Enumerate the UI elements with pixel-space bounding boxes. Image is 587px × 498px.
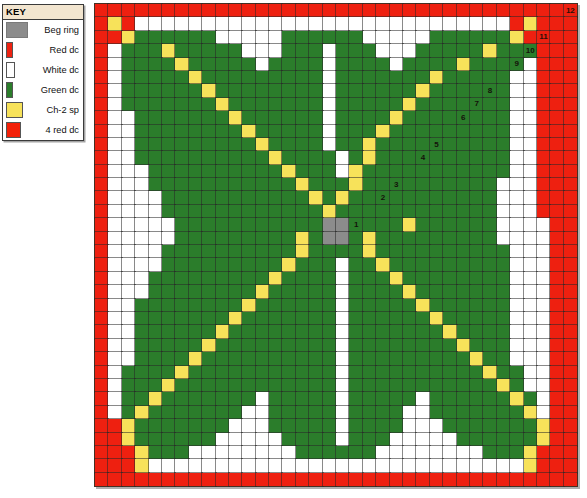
stitch-cell-white-dc [376, 446, 389, 459]
stitch-cell-red-dc [537, 44, 550, 57]
stitch-cell-white-dc [108, 299, 121, 312]
stitch-cell-green-dc [296, 111, 309, 124]
stitch-cell-green-dc [416, 285, 429, 298]
stitch-cell-green-dc [242, 312, 255, 325]
stitch-cell-green-dc [216, 352, 229, 365]
stitch-cell-green-dc [296, 84, 309, 97]
stitch-cell-green-dc [256, 151, 269, 164]
stitch-cell-green-dc [242, 58, 255, 71]
stitch-cell-green-dc [376, 379, 389, 392]
stitch-cell-green-dc [403, 178, 416, 191]
stitch-cell-green-dc [135, 366, 148, 379]
stitch-cell-green-dc [309, 31, 322, 44]
stitch-cell-white-dc [524, 151, 537, 164]
stitch-cell-white-dc [135, 258, 148, 271]
stitch-cell-red-dc [242, 473, 255, 486]
stitch-cell-green-dc [122, 71, 135, 84]
stitch-cell-red-dc [376, 4, 389, 17]
stitch-cell-green-dc [189, 178, 202, 191]
stitch-cell-red-dc [95, 379, 108, 392]
stitch-cell-white-dc [108, 165, 121, 178]
stitch-cell-green-dc [296, 379, 309, 392]
stitch-cell-white-dc [537, 352, 550, 365]
stitch-cell-white-dc [108, 339, 121, 352]
stitch-cell-ch-2-sp [390, 272, 403, 285]
stitch-cell-green-dc [376, 272, 389, 285]
stitch-cell-green-dc [470, 44, 483, 57]
stitch-cell-green-dc [457, 285, 470, 298]
stitch-cell-green-dc [457, 245, 470, 258]
round-number-cell: 7 [470, 98, 483, 111]
stitch-cell-green-dc [430, 339, 443, 352]
stitch-cell-white-dc [430, 446, 443, 459]
stitch-cell-green-dc [510, 379, 523, 392]
round-number-cell: 12 [564, 4, 577, 17]
stitch-cell-green-dc [497, 165, 510, 178]
stitch-cell-ch-2-sp [457, 339, 470, 352]
stitch-cell-white-dc [229, 446, 242, 459]
stitch-cell-green-dc [149, 433, 162, 446]
stitch-cell-white-dc [376, 17, 389, 30]
stitch-cell-ch-2-sp [403, 218, 416, 231]
stitch-cell-green-dc [269, 191, 282, 204]
stitch-cell-red-dc [550, 218, 563, 231]
stitch-cell-green-dc [189, 433, 202, 446]
stitch-cell-green-dc [309, 245, 322, 258]
stitch-cell-green-dc [470, 71, 483, 84]
stitch-cell-red-dc [550, 446, 563, 459]
stitch-cell-green-dc [390, 125, 403, 138]
stitch-cell-red-dc [550, 31, 563, 44]
stitch-cell-green-dc [323, 366, 336, 379]
stitch-cell-green-dc [416, 312, 429, 325]
stitch-cell-green-dc [256, 312, 269, 325]
round-number-label: 8 [483, 84, 496, 97]
stitch-cell-ch-2-sp [256, 285, 269, 298]
stitch-cell-green-dc [416, 44, 429, 57]
stitch-cell-green-dc [175, 419, 188, 432]
stitch-cell-green-dc [309, 98, 322, 111]
stitch-cell-green-dc [497, 84, 510, 97]
stitch-cell-green-dc [497, 272, 510, 285]
stitch-cell-green-dc [376, 433, 389, 446]
stitch-cell-green-dc [470, 165, 483, 178]
stitch-cell-red-dc [108, 433, 121, 446]
stitch-cell-green-dc [216, 339, 229, 352]
stitch-cell-red-dc [269, 4, 282, 17]
stitch-cell-green-dc [149, 366, 162, 379]
stitch-cell-white-dc [524, 58, 537, 71]
stitch-cell-white-dc [510, 285, 523, 298]
round-number-label: 4 [416, 151, 429, 164]
stitch-cell-red-dc [564, 125, 577, 138]
stitch-cell-green-dc [443, 232, 456, 245]
stitch-cell-green-dc [524, 419, 537, 432]
stitch-cell-red-dc [229, 4, 242, 17]
stitch-cell-green-dc [483, 111, 496, 124]
stitch-cell-green-dc [497, 312, 510, 325]
stitch-cell-green-dc [189, 84, 202, 97]
stitch-cell-green-dc [390, 419, 403, 432]
stitch-cell-white-dc [323, 84, 336, 97]
stitch-cell-green-dc [189, 245, 202, 258]
stitch-cell-white-dc [256, 459, 269, 472]
stitch-cell-white-dc [122, 218, 135, 231]
stitch-cell-green-dc [122, 366, 135, 379]
stitch-cell-white-dc [202, 459, 215, 472]
stitch-cell-green-dc [256, 218, 269, 231]
stitch-cell-green-dc [483, 191, 496, 204]
stitch-cell-green-dc [430, 392, 443, 405]
key-item-label: Green dc [17, 85, 80, 95]
stitch-cell-green-dc [323, 151, 336, 164]
stitch-cell-red-dc [510, 473, 523, 486]
stitch-cell-green-dc [122, 84, 135, 97]
stitch-cell-green-dc [122, 44, 135, 57]
stitch-cell-ch-2-sp [122, 31, 135, 44]
round-number-cell: 5 [430, 138, 443, 151]
stitch-cell-white-dc [256, 406, 269, 419]
stitch-cell-white-dc [242, 44, 255, 57]
stitch-cell-green-dc [457, 325, 470, 338]
stitch-cell-green-dc [336, 245, 349, 258]
stitch-cell-white-dc [510, 232, 523, 245]
stitch-cell-green-dc [430, 205, 443, 218]
stitch-cell-green-dc [202, 111, 215, 124]
stitch-cell-white-dc [470, 446, 483, 459]
